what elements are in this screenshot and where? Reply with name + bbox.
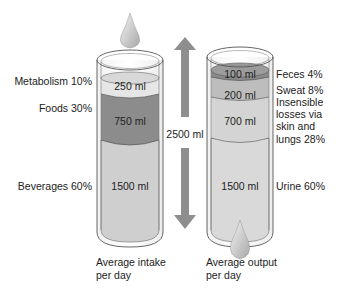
- output-insensible-label: Insensible losses via skin and lungs 28%: [276, 96, 325, 145]
- intake-caption-line2: per day: [96, 269, 166, 282]
- intake-caption: Average intake per day: [96, 256, 166, 281]
- intake-metabolism-label: Metabolism 10%: [0, 75, 92, 87]
- output-insensible-label-line: skin and: [276, 120, 325, 132]
- output-feces-label: Feces 4%: [276, 68, 323, 80]
- up-arrow-icon: [174, 37, 196, 117]
- diagram-graphics: [0, 0, 340, 297]
- intake-beverages-label: Beverages 60%: [0, 180, 92, 192]
- output-urine-label: Urine 60%: [276, 180, 325, 192]
- intake-foods-label: Foods 30%: [0, 102, 92, 114]
- output-insensible-label-line: lungs 28%: [276, 133, 325, 145]
- intake-beverages-volume: 1500 ml: [101, 180, 159, 192]
- output-sweat-volume: 200 ml: [211, 89, 269, 101]
- intake-metabolism-volume: 250 ml: [101, 80, 159, 92]
- down-arrow-icon: [174, 148, 196, 229]
- output-insensible-volume: 700 ml: [211, 115, 269, 127]
- intake-foods-volume: 750 ml: [101, 115, 159, 127]
- total-volume: 2500 ml: [163, 128, 207, 140]
- output-caption-line1: Average output: [206, 256, 277, 269]
- output-insensible-label-line: Insensible: [276, 96, 325, 108]
- output-sweat-label: Sweat 8%: [276, 84, 323, 96]
- water-drop-icon: [120, 13, 139, 48]
- output-insensible-label-line: losses via: [276, 108, 325, 120]
- intake-caption-line1: Average intake: [96, 256, 166, 269]
- output-caption: Average output per day: [206, 256, 277, 281]
- output-caption-line2: per day: [206, 269, 277, 282]
- output-urine-volume: 1500 ml: [211, 180, 269, 192]
- output-feces-volume: 100 ml: [211, 68, 269, 80]
